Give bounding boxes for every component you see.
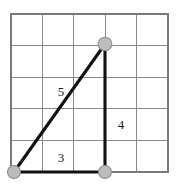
bottom-right-vertex xyxy=(99,166,112,179)
grid-border xyxy=(11,14,168,172)
top-right-vertex xyxy=(98,37,112,51)
bottom-left-vertex xyxy=(8,166,21,179)
horizontal-leg-label: 3 xyxy=(58,150,65,165)
grid-lines xyxy=(11,14,168,172)
vertical-leg-label: 4 xyxy=(118,117,125,132)
geometry-figure: 5 4 3 xyxy=(0,0,179,188)
figure-canvas: 5 4 3 xyxy=(0,0,179,188)
hypotenuse-label: 5 xyxy=(58,84,65,99)
